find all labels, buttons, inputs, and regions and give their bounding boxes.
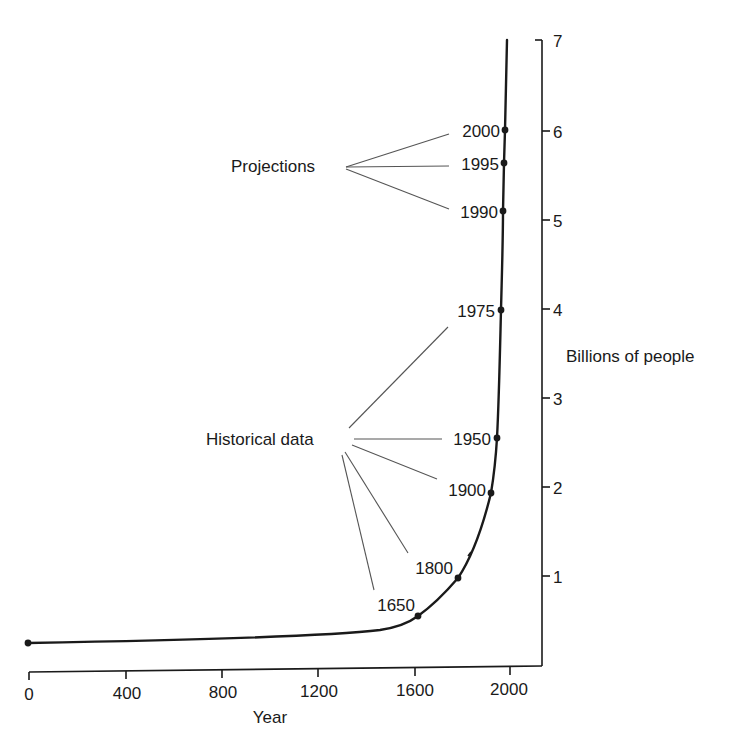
label-2000: 2000 xyxy=(462,122,500,141)
point-1990 xyxy=(500,208,507,215)
leader-1800 xyxy=(345,452,408,553)
y-tick-label: 2 xyxy=(553,479,562,498)
point-1975 xyxy=(498,307,505,314)
point-1650 xyxy=(415,613,422,620)
x-tick-label: 1200 xyxy=(300,682,338,701)
point-1900 xyxy=(488,490,495,497)
label-1975: 1975 xyxy=(457,302,495,321)
y-tick-label: 4 xyxy=(553,301,562,320)
population-curve xyxy=(28,40,507,643)
x-tick-label: 400 xyxy=(113,684,141,703)
y-tick-label: 5 xyxy=(553,212,562,231)
leader-1900 xyxy=(352,445,437,479)
label-1995: 1995 xyxy=(461,155,499,174)
x-tick-label: 1600 xyxy=(396,681,434,700)
point-year-0 xyxy=(25,640,32,647)
leader-1975 xyxy=(349,327,448,428)
population-chart: 0 400 800 1200 1600 2000 Year 7 6 5 4 3 … xyxy=(0,0,752,747)
x-tick-label: 800 xyxy=(209,683,237,702)
label-1800: 1800 xyxy=(415,559,453,578)
label-1990: 1990 xyxy=(460,203,498,222)
leader-1995 xyxy=(346,166,449,167)
projections-label: Projections xyxy=(231,157,315,176)
y-tick-labels: 7 6 5 4 3 2 1 xyxy=(553,32,562,587)
x-axis-line xyxy=(29,666,542,672)
y-tick-label: 6 xyxy=(553,123,562,142)
label-1650: 1650 xyxy=(377,596,415,615)
label-1950: 1950 xyxy=(453,430,491,449)
y-axis-title: Billions of people xyxy=(566,347,695,366)
y-tick-label: 1 xyxy=(553,568,562,587)
point-1995 xyxy=(501,160,508,167)
point-1800 xyxy=(455,575,462,582)
y-tick-label: 3 xyxy=(553,390,562,409)
leader-1650 xyxy=(342,455,374,590)
point-1950 xyxy=(494,435,501,442)
x-tick-label: 2000 xyxy=(490,680,528,699)
x-tick-labels: 0 400 800 1200 1600 2000 xyxy=(24,680,528,704)
leader-lines xyxy=(342,134,449,590)
historical-data-label: Historical data xyxy=(206,430,314,449)
leader-1990 xyxy=(346,169,449,209)
point-2000 xyxy=(502,127,509,134)
label-1900: 1900 xyxy=(448,481,486,500)
x-axis-title: Year xyxy=(253,708,288,727)
x-tick-label: 0 xyxy=(24,685,33,704)
y-tick-label: 7 xyxy=(553,32,562,51)
leader-2000 xyxy=(346,134,449,167)
point-labels: 2000 1995 1990 1975 1950 1900 1800 1650 xyxy=(377,122,500,615)
